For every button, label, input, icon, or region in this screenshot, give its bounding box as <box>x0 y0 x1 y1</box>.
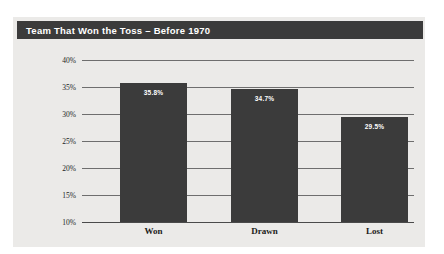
y-axis-tick-label: 30% <box>16 110 76 119</box>
y-axis-tick-label: 35% <box>16 83 76 92</box>
x-axis: WonDrawnLost <box>82 226 414 242</box>
x-axis-category-label: Drawn <box>231 226 298 236</box>
y-axis-tick-label: 25% <box>16 137 76 146</box>
y-axis: 40%35%30%25%20%15%10% <box>14 60 76 222</box>
gridline <box>82 222 414 223</box>
bar-series: 35.8%34.7%29.5% <box>82 60 414 222</box>
bar-value-label: 34.7% <box>231 95 298 102</box>
y-axis-tick-label: 10% <box>16 218 76 227</box>
bar-value-label: 35.8% <box>120 89 187 96</box>
chart-title: Team That Won the Toss – Before 1970 <box>26 25 210 36</box>
chart-title-bar: Team That Won the Toss – Before 1970 <box>17 21 423 39</box>
y-axis-tick-label: 40% <box>16 56 76 65</box>
bar: 35.8% <box>120 83 187 222</box>
x-axis-category-label: Won <box>120 226 187 236</box>
bar: 34.7% <box>231 89 298 222</box>
bar-value-label: 29.5% <box>341 123 408 130</box>
x-axis-category-label: Lost <box>341 226 408 236</box>
y-axis-tick-label: 15% <box>16 191 76 200</box>
y-axis-tick-label: 20% <box>16 164 76 173</box>
bar: 29.5% <box>341 117 408 222</box>
